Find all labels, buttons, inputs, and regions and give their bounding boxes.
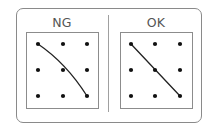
dot-grid-overlay	[0, 0, 215, 131]
grid-dot	[36, 94, 40, 98]
grid-dot	[85, 68, 89, 72]
ng-dot-grid	[36, 42, 89, 98]
grid-dot	[178, 68, 182, 72]
grid-dot	[178, 42, 182, 46]
grid-dot	[129, 42, 133, 46]
grid-dot	[153, 94, 157, 98]
grid-dot	[153, 42, 157, 46]
grid-dot	[85, 42, 89, 46]
grid-dot	[61, 94, 65, 98]
grid-dot	[36, 42, 40, 46]
grid-dot	[36, 68, 40, 72]
grid-dot	[129, 94, 133, 98]
grid-dot	[61, 42, 65, 46]
grid-dot	[61, 68, 65, 72]
grid-dot	[153, 68, 157, 72]
grid-dot	[129, 68, 133, 72]
grid-dot	[178, 94, 182, 98]
grid-dot	[85, 94, 89, 98]
